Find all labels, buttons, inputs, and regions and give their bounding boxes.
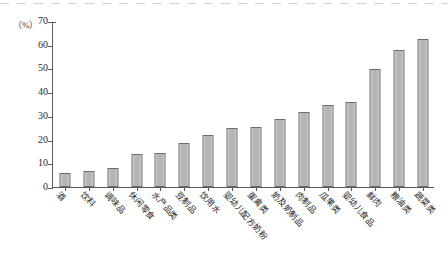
bar (107, 168, 118, 187)
y-axis-tick-label: 10 (38, 157, 48, 169)
x-axis-category-label: 酒 (54, 190, 67, 203)
bar (298, 112, 309, 187)
bar-series (53, 22, 434, 187)
bar (203, 135, 214, 187)
plot-area: 010203040506070 (52, 22, 434, 188)
bar-slot (220, 22, 244, 187)
y-axis-tick-mark (48, 188, 53, 189)
bar (322, 105, 333, 188)
y-axis-tick-label: 20 (38, 134, 48, 146)
x-axis-category-label: 饮用水 (197, 190, 221, 216)
y-axis-tick-label: 50 (38, 62, 48, 74)
bar (179, 143, 190, 187)
scan-artifact-line (0, 3, 448, 4)
x-axis-category-label: 婴幼儿配方奶粉 (221, 190, 269, 242)
bar-slot (101, 22, 125, 187)
y-axis-unit-label: （%） (13, 20, 39, 30)
bar-slot (77, 22, 101, 187)
y-axis-tick-label: 40 (38, 86, 48, 98)
y-axis-tick-label: 30 (38, 110, 48, 122)
bar (370, 69, 381, 187)
bar (155, 153, 166, 187)
bar-slot (268, 22, 292, 187)
bar (131, 154, 142, 187)
y-axis-tick-label: 70 (38, 15, 48, 27)
bar-slot (387, 22, 411, 187)
bar-slot (340, 22, 364, 187)
bar-slot (53, 22, 77, 187)
bar-chart: （%） 010203040506070 酒饮料调味品休闲零食水产品类豆制品饮用水… (0, 0, 448, 270)
bar (346, 102, 357, 187)
bar (59, 173, 70, 187)
bar (250, 127, 261, 187)
bar (274, 119, 285, 187)
bar-slot (196, 22, 220, 187)
bar-slot (411, 22, 435, 187)
bar (418, 39, 429, 188)
y-axis-tick-label: 0 (43, 181, 48, 193)
x-axis-category-label: 调味品 (102, 190, 126, 216)
bar-slot (316, 22, 340, 187)
x-axis-category-label: 鲜肉 (365, 190, 383, 209)
y-axis-tick-label: 60 (38, 39, 48, 51)
bar-slot (292, 22, 316, 187)
x-axis-category-label: 蔬菜类 (412, 190, 436, 216)
bar (83, 171, 94, 188)
bar-slot (172, 22, 196, 187)
bar (227, 128, 238, 187)
x-axis-category-labels: 酒饮料调味品休闲零食水产品类豆制品饮用水婴幼儿配方奶粉蛋禽类奶及奶制品肉制品瓜果… (52, 190, 434, 268)
bar-slot (363, 22, 387, 187)
x-axis-category-label: 饮料 (78, 190, 96, 209)
bar (394, 50, 405, 187)
x-axis-category-label: 粮油类 (388, 190, 412, 216)
bar-slot (244, 22, 268, 187)
bar-slot (125, 22, 149, 187)
bar-slot (149, 22, 173, 187)
x-axis-category-label: 瓜果类 (317, 190, 341, 216)
